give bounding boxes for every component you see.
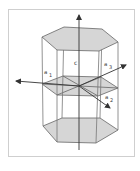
top-face <box>42 27 118 51</box>
a1-subscript: 1 <box>49 72 52 78</box>
hexagonal-prism-diagram: c a 1 a 3 a 2 <box>0 0 140 171</box>
a3-subscript: 3 <box>109 64 112 70</box>
a2-subscript: 2 <box>110 97 113 103</box>
a3-label: a <box>104 61 107 67</box>
bottom-face <box>43 118 118 143</box>
a1-label: a <box>44 69 47 75</box>
c-label: c <box>74 59 77 66</box>
a2-label: a <box>105 94 108 100</box>
